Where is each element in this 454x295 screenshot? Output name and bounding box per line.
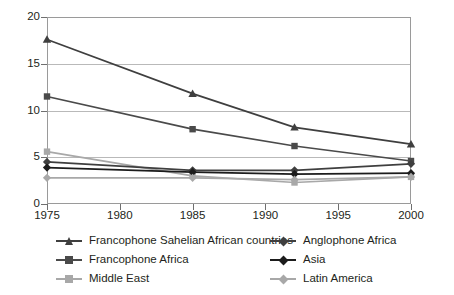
data-point-marker: [44, 148, 50, 154]
legend-label: Francophone Sahelian African countries: [89, 235, 293, 247]
legend-marker-diamond-icon: [270, 273, 296, 284]
legend-marker-diamond-icon: [270, 254, 296, 265]
y-tick-label: 15: [10, 58, 40, 70]
series-2: [44, 93, 414, 164]
x-tick-label: 1985: [170, 210, 216, 222]
x-tick-label: 1975: [24, 210, 70, 222]
x-tick-label: 2000: [388, 210, 434, 222]
data-point-marker: [43, 35, 51, 42]
x-tick-label: 1980: [97, 210, 143, 222]
legend-item[interactable]: Francophone Sahelian African countries: [56, 231, 270, 250]
legend-item[interactable]: Asia: [270, 250, 448, 269]
legend-marker-diamond-icon: [270, 235, 296, 246]
legend-marker-triangle-icon: [56, 235, 82, 246]
legend-item[interactable]: Anglophone Africa: [270, 231, 448, 250]
legend-item[interactable]: Francophone Africa: [56, 250, 270, 269]
series-layer: [47, 17, 411, 204]
series-6: [43, 173, 415, 184]
data-point-marker: [43, 174, 51, 182]
legend-label: Middle East: [89, 273, 149, 285]
data-point-marker: [44, 93, 50, 99]
series-line: [47, 39, 411, 144]
legend-item[interactable]: Latin America: [270, 269, 448, 288]
plot-area: [47, 17, 411, 204]
y-tick-label: 5: [10, 152, 40, 164]
chart-figure: 05101520 197519801985199019952000 Franco…: [0, 0, 454, 295]
y-tick-label: 20: [10, 11, 40, 23]
legend-marker-square-icon: [56, 254, 82, 265]
data-point-marker: [291, 143, 297, 149]
x-tick-label: 1990: [242, 210, 288, 222]
legend-label: Francophone Africa: [89, 254, 189, 266]
legend-item[interactable]: Middle East: [56, 269, 270, 288]
legend-label: Latin America: [303, 273, 373, 285]
series-1: [43, 35, 415, 147]
legend-marker-square-icon: [56, 273, 82, 284]
legend-label: Anglophone Africa: [303, 235, 396, 247]
legend-label: Asia: [303, 254, 325, 266]
data-point-marker: [43, 163, 51, 171]
y-tick-label: 10: [10, 105, 40, 117]
chart-legend: Francophone Sahelian African countriesAn…: [56, 231, 448, 289]
data-point-marker: [189, 126, 195, 132]
x-tick-label: 1995: [315, 210, 361, 222]
